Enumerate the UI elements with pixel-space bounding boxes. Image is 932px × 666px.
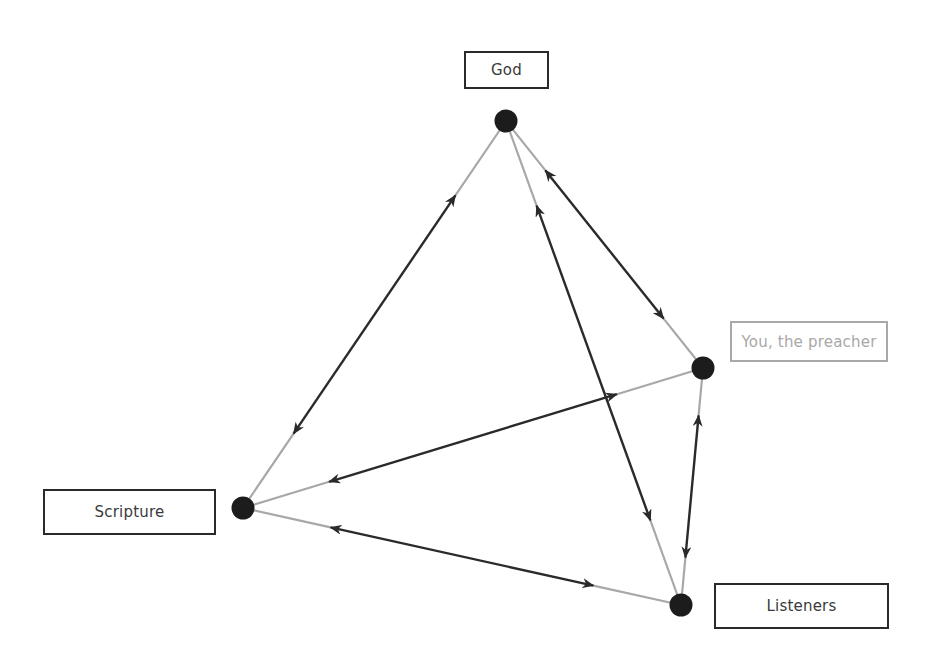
edge-scripture-listeners: [243, 508, 681, 605]
scripture-label-box: Scripture: [43, 489, 216, 535]
preacher-node: [692, 357, 715, 380]
preacher-label-box: You, the preacher: [730, 321, 888, 362]
edge-god-preacher: [506, 121, 703, 368]
listeners-node: [670, 594, 693, 617]
god-label: God: [491, 61, 522, 79]
edge-god-scripture: [243, 121, 506, 508]
scripture-label: Scripture: [95, 503, 165, 521]
listeners-label: Listeners: [767, 597, 837, 615]
edge-god-listeners: [506, 121, 681, 605]
edge-preacher-listeners: [681, 368, 703, 605]
scripture-node: [232, 497, 255, 520]
edge-preacher-scripture: [243, 368, 703, 508]
god-label-box: God: [464, 51, 549, 89]
preacher-label: You, the preacher: [741, 333, 876, 351]
god-node: [495, 110, 518, 133]
listeners-label-box: Listeners: [714, 583, 889, 629]
relationship-diagram: God You, the preacher Scripture Listener…: [0, 0, 932, 666]
